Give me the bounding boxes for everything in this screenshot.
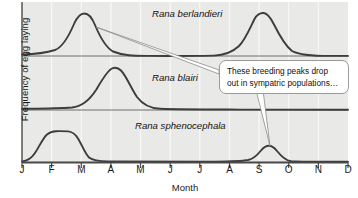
y-axis-label: Frequency of egg laying: [19, 0, 30, 140]
x-tick-label-oct: O: [282, 164, 296, 175]
callout-line-2: out in sympatric populations…: [227, 77, 342, 89]
x-tick-label-apr: A: [104, 164, 118, 175]
x-axis-label: Month: [22, 182, 348, 193]
figure-root: Frequency of egg laying Month J F M A M …: [0, 0, 358, 198]
panel-label-rana-berlandieri: Rana berlandieri: [152, 8, 222, 19]
x-tick-label-dec: D: [341, 164, 355, 175]
panel-label-rana-blairi: Rana blairi: [152, 72, 198, 83]
x-tick-label-mar: M: [74, 164, 88, 175]
callout-line-1: These breeding peaks drop: [227, 65, 342, 77]
x-tick-label-nov: N: [311, 164, 325, 175]
x-tick-label-may: M: [134, 164, 148, 175]
x-tick-label-sep: S: [252, 164, 266, 175]
x-tick-label-jul: J: [193, 164, 207, 175]
panel-label-rana-sphenocephala: Rana sphenocephala: [135, 120, 226, 131]
x-axis-ticks: [22, 163, 348, 168]
x-tick-label-feb: F: [45, 164, 59, 175]
x-tick-label-jan: J: [15, 164, 29, 175]
x-tick-label-jun: J: [163, 164, 177, 175]
annotation-callout: These breeding peaks drop out in sympatr…: [219, 60, 349, 94]
x-tick-label-aug: A: [223, 164, 237, 175]
